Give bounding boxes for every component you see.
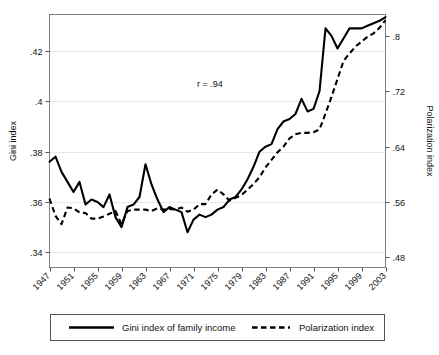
left-tick-label-.36: .36 (30, 198, 43, 208)
figure-container: .34.36.38.4.42 .48.56.64.72.8 1947195119… (0, 0, 439, 355)
left-tick-label-.42: .42 (30, 47, 43, 57)
legend-label-polarization-index[interactable]: Polarization index (299, 322, 374, 333)
left-tick-label-.38: .38 (30, 148, 43, 158)
right-tick-label-.72: .72 (393, 87, 406, 97)
right-tick-label-.8: .8 (393, 32, 401, 42)
correlation-annotation: r = .94 (197, 79, 223, 89)
right-tick-label-.48: .48 (393, 253, 406, 263)
legend-label-gini-index-of-family-income[interactable]: Gini index of family income (122, 322, 236, 333)
right-axis-title: Polarization index (425, 105, 435, 177)
right-tick-label-.64: .64 (393, 143, 406, 153)
left-tick-label-.34: .34 (30, 248, 43, 258)
left-tick-label-.4: .4 (35, 97, 43, 107)
right-tick-label-.56: .56 (393, 198, 406, 208)
chart-canvas: .34.36.38.4.42 .48.56.64.72.8 1947195119… (0, 0, 439, 355)
left-axis-title: Gini index (8, 120, 18, 161)
